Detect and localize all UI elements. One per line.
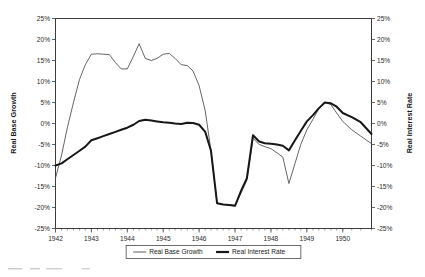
y-axis-left-label: Real Base Growth bbox=[9, 92, 18, 154]
chart-legend: Real Base GrowthReal Interest Rate bbox=[126, 246, 301, 259]
y-axis-left-tick-label: 5% bbox=[40, 99, 50, 106]
y-axis-left-tick-label: -5% bbox=[38, 141, 50, 148]
y-axis-right-tick-label: -10% bbox=[377, 162, 393, 169]
x-axis-tick-label: 1950 bbox=[335, 235, 350, 242]
y-axis-right-tick-label: 25% bbox=[377, 15, 390, 22]
y-axis-right-tick-label: -20% bbox=[377, 204, 393, 211]
y-axis-left-tick-label: -10% bbox=[35, 162, 51, 169]
real-base-growth-interest-rate-chart: 25%20%15%10%5%0%-5%-10%-15%-20%-25% 25%2… bbox=[0, 0, 425, 277]
x-axis-tick-label: 1942 bbox=[48, 235, 63, 242]
y-axis-right-tick-label: -15% bbox=[377, 183, 393, 190]
y-axis-right-tick-label: -5% bbox=[377, 141, 389, 148]
y-axis-left-tick-label: -25% bbox=[35, 225, 51, 232]
y-axis-left-tick-label: 0% bbox=[40, 120, 50, 127]
legend-label-real-interest-rate: Real Interest Rate bbox=[232, 248, 285, 255]
y-axis-left-tick-label: 25% bbox=[37, 15, 50, 22]
x-axis-tick-label: 1945 bbox=[156, 235, 171, 242]
legend-label-real-base-growth: Real Base Growth bbox=[149, 248, 203, 255]
y-axis-right-tick-label: 0% bbox=[377, 120, 387, 127]
x-axis-tick-label: 1946 bbox=[192, 235, 207, 242]
y-axis-right-tick-label: 10% bbox=[377, 78, 390, 85]
x-axis-tick-label: 1947 bbox=[228, 235, 243, 242]
y-axis-right-tick-label: 5% bbox=[377, 99, 387, 106]
y-axis-right-tick-label: 20% bbox=[377, 36, 390, 43]
x-axis-tick-label: 1948 bbox=[264, 235, 279, 242]
x-axis-tick-label: 1943 bbox=[84, 235, 99, 242]
y-axis-left-tick-label: 10% bbox=[37, 78, 50, 85]
y-axis-left-tick-label: 15% bbox=[37, 57, 50, 64]
y-axis-right-label: Real Interest Rate bbox=[405, 93, 414, 154]
figure-container: 25%20%15%10%5%0%-5%-10%-15%-20%-25% 25%2… bbox=[0, 0, 425, 277]
x-axis-tick-label: 1944 bbox=[120, 235, 135, 242]
y-axis-right-tick-label: 15% bbox=[377, 57, 390, 64]
y-axis-left-tick-label: -15% bbox=[35, 183, 51, 190]
chart-background bbox=[0, 0, 425, 277]
y-axis-left-tick-label: 20% bbox=[37, 36, 50, 43]
y-axis-left-tick-label: -20% bbox=[35, 204, 51, 211]
y-axis-right-tick-label: -25% bbox=[377, 225, 393, 232]
x-axis-tick-label: 1949 bbox=[300, 235, 315, 242]
